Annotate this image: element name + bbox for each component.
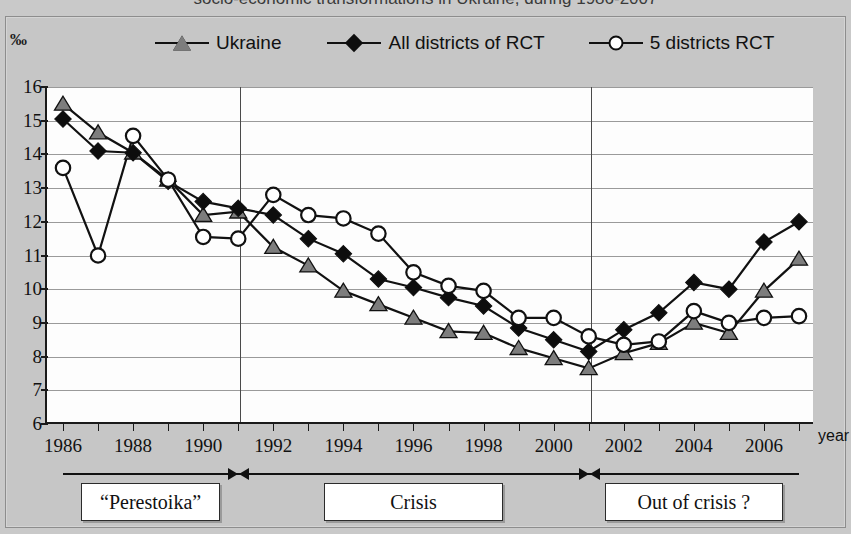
data-point-circle	[722, 316, 736, 330]
x-axis: 1986198819901992199419961998200020022004…	[45, 424, 820, 464]
data-point-diamond	[335, 246, 351, 262]
y-axis-tick-label: 11	[2, 245, 42, 267]
phase-span-line	[238, 473, 588, 475]
y-axis-tick	[41, 322, 48, 324]
y-axis-tick	[41, 423, 48, 425]
x-axis-tick	[238, 424, 239, 431]
data-point-circle	[757, 311, 771, 325]
circle-icon	[608, 36, 623, 51]
data-point-triangle	[55, 96, 72, 110]
triangle-icon	[173, 36, 191, 51]
data-point-diamond	[405, 279, 421, 295]
x-axis-tick-label: 1996	[394, 435, 432, 457]
data-point-circle	[196, 230, 210, 244]
data-point-diamond	[370, 271, 386, 287]
data-point-circle	[371, 226, 385, 240]
x-axis-tick	[484, 424, 485, 431]
chart-legend: Ukraine All districts of RCT 5 districts…	[0, 28, 841, 58]
chart-title-clipped: socio-economic transformations in Ukrain…	[0, 0, 851, 14]
x-axis-tick-label: 1988	[114, 435, 152, 457]
x-axis-tick-label: 2006	[745, 435, 783, 457]
data-point-circle	[301, 208, 315, 222]
legend-line-5-districts	[589, 42, 643, 44]
phase-span-line	[63, 473, 238, 475]
x-axis-tick	[764, 424, 765, 431]
data-point-diamond	[545, 332, 561, 348]
phase-span-line	[589, 473, 799, 475]
data-point-circle	[126, 129, 140, 143]
data-point-triangle	[510, 340, 527, 354]
x-axis-tick-label: 1998	[465, 435, 503, 457]
diamond-icon	[345, 34, 363, 52]
x-axis-tick	[343, 424, 344, 431]
data-point-circle	[617, 338, 631, 352]
phase-box-crisis: Crisis	[324, 483, 502, 521]
y-axis-tick-label: 6	[2, 413, 42, 435]
data-point-diamond	[475, 298, 491, 314]
phase-box-out-of-crisis: Out of crisis ?	[605, 483, 783, 521]
x-axis-tick	[624, 424, 625, 431]
x-axis-tick	[589, 424, 590, 431]
arrow-head-right-icon	[579, 468, 589, 480]
arrow-head-right-icon	[228, 468, 238, 480]
data-point-circle	[441, 279, 455, 293]
data-point-triangle	[370, 297, 387, 311]
y-axis-tick-label: 9	[2, 312, 42, 334]
y-axis-tick	[41, 288, 48, 290]
data-point-circle	[687, 304, 701, 318]
data-point-diamond	[195, 193, 211, 209]
legend-line-ukraine	[155, 42, 209, 44]
x-axis-tick-label: 2002	[605, 435, 643, 457]
data-point-circle	[56, 161, 70, 175]
data-point-triangle	[405, 310, 422, 324]
y-axis-tick-label: 7	[2, 379, 42, 401]
x-axis-tick	[554, 424, 555, 431]
x-axis-tick	[799, 424, 800, 431]
y-axis-tick	[41, 221, 48, 223]
x-axis-tick	[168, 424, 169, 431]
data-point-circle	[546, 311, 560, 325]
data-point-circle	[266, 188, 280, 202]
legend-label-ukraine: Ukraine	[216, 32, 281, 54]
y-axis-tick-label: 8	[2, 346, 42, 368]
x-axis-tick	[659, 424, 660, 431]
y-axis-tick	[41, 86, 48, 88]
plot-area	[45, 87, 813, 424]
x-axis-tick	[63, 424, 64, 431]
y-axis-tick-label: 13	[2, 177, 42, 199]
x-axis-tick-label: 1990	[184, 435, 222, 457]
x-axis-tick	[308, 424, 309, 431]
data-point-circle	[582, 329, 596, 343]
y-axis-tick	[41, 187, 48, 189]
chart-figure: socio-economic transformations in Ukrain…	[0, 0, 851, 534]
y-axis-tick	[41, 389, 48, 391]
x-axis-title: year	[818, 427, 849, 445]
y-axis-tick-label: 12	[2, 211, 42, 233]
data-point-circle	[161, 172, 175, 186]
data-point-circle	[406, 265, 420, 279]
x-axis-tick-label: 2000	[535, 435, 573, 457]
x-axis-tick-label: 1994	[324, 435, 362, 457]
data-point-circle	[476, 284, 490, 298]
y-axis-tick-label: 14	[2, 143, 42, 165]
y-axis-tick	[41, 255, 48, 257]
x-axis-tick	[98, 424, 99, 431]
data-point-circle	[652, 334, 666, 348]
series-lines	[45, 87, 813, 424]
phase-box-row: “Perestoika” Crisis Out of crisis ?	[45, 483, 835, 525]
x-axis-tick-label: 1992	[254, 435, 292, 457]
x-axis-tick	[729, 424, 730, 431]
data-point-diamond	[265, 207, 281, 223]
x-axis-tick	[413, 424, 414, 431]
y-axis-tick	[41, 153, 48, 155]
data-point-diamond	[616, 321, 632, 337]
data-point-diamond	[721, 281, 737, 297]
x-axis-tick	[449, 424, 450, 431]
x-axis-tick	[378, 424, 379, 431]
data-point-circle	[511, 311, 525, 325]
phase-arrow-row	[45, 468, 820, 480]
x-axis-tick	[273, 424, 274, 431]
y-axis-tick-label: 16	[2, 76, 42, 98]
legend-item-5-districts: 5 districts RCT	[589, 32, 775, 54]
legend-item-all-districts: All districts of RCT	[327, 32, 544, 54]
